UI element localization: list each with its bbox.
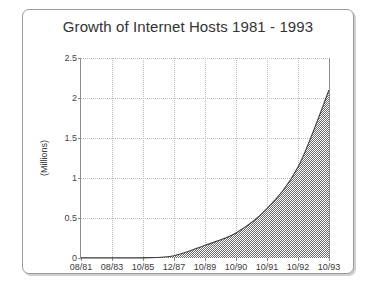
y-tick-label: 1.5 [64, 133, 77, 143]
y-tick-label: 2.5 [64, 53, 77, 63]
x-tick-label: 10/90 [225, 262, 248, 272]
chart-frame: Growth of Internet Hosts 1981 - 1993 (Mi… [22, 9, 354, 274]
x-tick-label: 10/91 [256, 262, 279, 272]
plot-area: 00.511.522.5 08/8108/8310/8512/8710/8910… [80, 58, 328, 258]
area-fill [81, 90, 329, 258]
x-tick-label: 10/85 [132, 262, 155, 272]
x-tick-label: 08/81 [70, 262, 93, 272]
x-tick-label: 10/93 [318, 262, 341, 272]
internet-hosts-area-series [81, 58, 328, 257]
x-tick-label: 08/83 [101, 262, 124, 272]
y-axis-label: (Millions) [39, 140, 49, 176]
y-tick-label: 0.5 [64, 213, 77, 223]
x-tick-label: 10/92 [287, 262, 310, 272]
plot-right-edge [329, 58, 330, 257]
x-tick-label: 10/89 [194, 262, 217, 272]
y-tick-label: 2 [72, 93, 77, 103]
x-tick-mark [329, 257, 330, 261]
x-tick-label: 12/87 [163, 262, 186, 272]
chart-title: Growth of Internet Hosts 1981 - 1993 [23, 18, 353, 35]
y-tick-label: 1 [72, 173, 77, 183]
